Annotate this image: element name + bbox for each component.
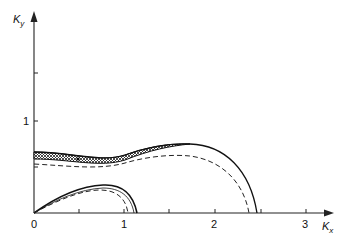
inner-solid-curve-inner [34, 188, 134, 213]
y-axis-arrow-icon [31, 11, 38, 22]
band-marker [76, 157, 79, 160]
y-axis-label: Ky [13, 13, 25, 28]
y-tick-label-1: 1 [23, 115, 29, 127]
x-tick-label-2: 2 [211, 218, 217, 230]
x-axis-arrow-icon [324, 210, 334, 217]
kx-ky-diagram: 0 1 2 3 1 Kx Ky [0, 0, 351, 242]
x-tick-label-0: 0 [31, 218, 37, 230]
axes: 0 1 2 3 1 Kx Ky [13, 11, 334, 235]
x-ticks [79, 209, 306, 213]
inner-solid-curve [34, 185, 137, 213]
x-tick-label-1: 1 [121, 218, 127, 230]
outer-dashed-curve [34, 155, 249, 213]
x-tick-label-3: 3 [302, 218, 308, 230]
outer-solid-curve [34, 144, 257, 213]
inner-dashed-curve [34, 190, 128, 213]
x-axis-label: Kx [322, 220, 334, 235]
